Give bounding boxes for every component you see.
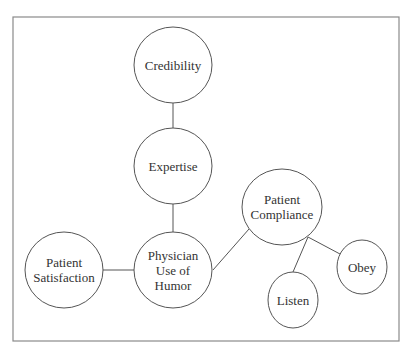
node-label: Compliance <box>251 207 314 222</box>
node-label: Listen <box>277 293 310 308</box>
node-obey: Obey <box>337 240 387 294</box>
node-label: Use of <box>156 263 191 278</box>
node-label: Physician <box>148 248 199 263</box>
node-physician-humor: PhysicianUse ofHumor <box>134 232 212 308</box>
node-label: Patient <box>264 192 300 207</box>
node-label: Expertise <box>148 159 197 174</box>
node-label: Humor <box>155 278 193 293</box>
node-patient-satisfaction: PatientSatisfaction <box>25 232 103 308</box>
node-patient-compliance: PatientCompliance <box>242 169 322 245</box>
node-listen: Listen <box>268 272 318 328</box>
node-label: Satisfaction <box>33 270 95 285</box>
node-label: Credibility <box>145 58 202 73</box>
concept-diagram: CredibilityExpertisePhysicianUse ofHumor… <box>0 0 411 348</box>
node-credibility: Credibility <box>134 27 212 103</box>
node-expertise: Expertise <box>134 128 212 204</box>
node-label: Obey <box>348 260 377 275</box>
node-label: Patient <box>46 255 82 270</box>
